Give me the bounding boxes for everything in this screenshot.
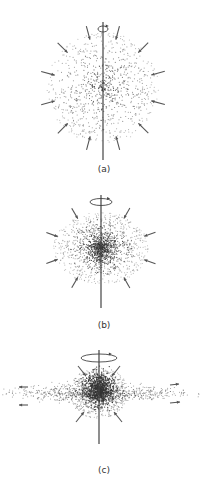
outward-arrow-icon [170, 383, 179, 386]
outward-arrow-icon [19, 385, 28, 388]
panel-c: (c) [0, 0, 208, 485]
outward-arrow-icon [19, 403, 28, 406]
panel-c-figure [0, 0, 208, 470]
outward-arrow-icon [170, 401, 180, 404]
panel-c-label: (c) [0, 465, 208, 475]
inward-arrow-icon [114, 412, 122, 422]
inward-arrow-icon [76, 412, 84, 422]
